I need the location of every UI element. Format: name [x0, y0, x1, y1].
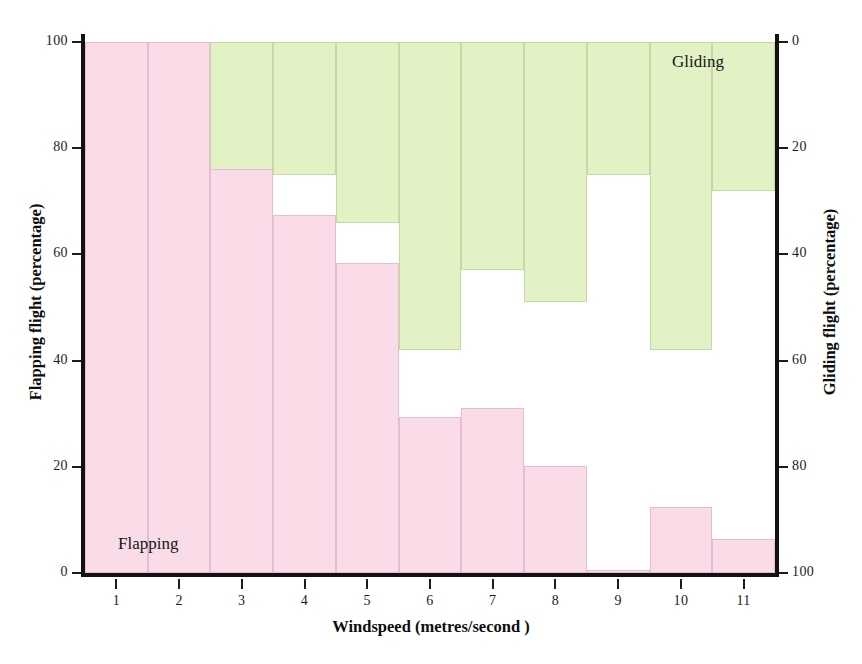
y-axis-right-tick-label: 20 [792, 139, 836, 155]
x-axis-line [81, 573, 779, 577]
x-axis-tick [617, 579, 619, 589]
x-axis-tick [743, 579, 745, 589]
y-axis-right-tick [779, 41, 788, 43]
x-axis-tick [304, 579, 306, 589]
series-label-gliding: Gliding [672, 52, 724, 72]
y-axis-left-tick [72, 41, 81, 43]
bar-flapping [399, 417, 462, 573]
x-axis-tick-label: 2 [164, 593, 194, 609]
bar-flapping [336, 263, 399, 573]
x-axis-tick [429, 579, 431, 589]
y-axis-right-tick-label: 0 [792, 33, 836, 49]
y-axis-left-tick-label: 20 [28, 458, 68, 474]
x-axis-tick-label: 1 [101, 593, 131, 609]
bar-flapping [461, 408, 524, 573]
bar-flapping [273, 215, 336, 573]
bar-gliding [273, 42, 336, 175]
y-axis-left-tick-label: 80 [28, 139, 68, 155]
y-axis-right-tick-label: 80 [792, 458, 836, 474]
x-axis-tick [178, 579, 180, 589]
y-axis-left-tick [72, 360, 81, 362]
bar-flapping [85, 42, 148, 573]
bar-gliding [210, 42, 273, 175]
y-axis-right-tick [779, 147, 788, 149]
bar-flapping [712, 539, 775, 573]
series-label-flapping: Flapping [118, 534, 178, 554]
bar-gliding [336, 42, 399, 223]
x-axis-tick [554, 579, 556, 589]
y-axis-right-tick-label: 100 [792, 564, 836, 580]
x-axis-title: Windspeed (metres/second ) [0, 617, 862, 637]
y-axis-left-line [81, 34, 85, 577]
x-axis-tick-label: 7 [478, 593, 508, 609]
bar-gliding [461, 42, 524, 270]
x-axis-tick-label: 9 [603, 593, 633, 609]
y-axis-left-tick [72, 572, 81, 574]
bar-gliding [587, 42, 650, 175]
plot-area [85, 42, 775, 573]
y-axis-left-tick [72, 147, 81, 149]
y-axis-right-tick [779, 466, 788, 468]
y-axis-right-tick [779, 253, 788, 255]
chart-figure: 0204060801000204060801001234567891011 Fl… [0, 0, 862, 664]
bar-flapping [148, 42, 211, 573]
y-axis-left-tick [72, 466, 81, 468]
x-axis-tick [492, 579, 494, 589]
x-axis-tick-label: 6 [415, 593, 445, 609]
x-axis-tick-label: 8 [540, 593, 570, 609]
y-axis-left-tick [72, 253, 81, 255]
x-axis-tick [115, 579, 117, 589]
bar-gliding [399, 42, 462, 350]
bar-gliding [524, 42, 587, 302]
bar-flapping [524, 466, 587, 573]
x-axis-tick-label: 11 [729, 593, 759, 609]
x-axis-tick [680, 579, 682, 589]
y-axis-right-line [775, 34, 779, 577]
y-axis-left-tick-label: 0 [28, 564, 68, 580]
bar-flapping [210, 169, 273, 573]
x-axis-tick [241, 579, 243, 589]
y-axis-right-tick [779, 572, 788, 574]
x-axis-tick-label: 4 [290, 593, 320, 609]
y-axis-left-title: Flapping flight (percentage) [26, 172, 46, 432]
bar-flapping [650, 507, 713, 573]
x-axis-tick-label: 10 [666, 593, 696, 609]
x-axis-tick-label: 3 [227, 593, 257, 609]
y-axis-right-title: Gliding flight (percentage) [820, 172, 840, 432]
bar-gliding [650, 42, 713, 350]
y-axis-left-tick-label: 100 [28, 33, 68, 49]
y-axis-right-tick [779, 360, 788, 362]
x-axis-tick [366, 579, 368, 589]
x-axis-tick-label: 5 [352, 593, 382, 609]
